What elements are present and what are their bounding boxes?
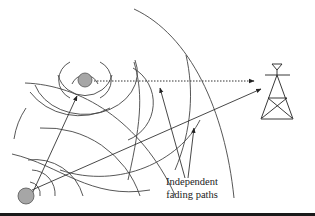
lower-phone-icon <box>18 188 34 204</box>
independent-fading-paths-label: Independent fading paths <box>160 175 224 201</box>
upper-phone-icon <box>78 73 92 87</box>
label-line-1: Independent <box>160 175 224 188</box>
wave-arc <box>40 128 140 196</box>
wave-arc <box>25 83 175 195</box>
multipath-diagram <box>0 0 315 216</box>
wave-arc <box>134 9 234 198</box>
wave-arc <box>175 55 191 170</box>
wave-arc <box>59 62 70 98</box>
label-line-2: fading paths <box>160 188 224 201</box>
wave-arc <box>32 170 55 196</box>
wave-arc <box>100 62 111 98</box>
wave-arc <box>128 68 153 140</box>
bottom-edge-bar <box>0 213 315 216</box>
label-pointer-arrow <box>188 128 194 178</box>
wavefront-arcs <box>12 9 234 198</box>
reflected-path-arrow <box>32 89 261 190</box>
wave-arc <box>14 108 26 139</box>
wave-arc <box>128 62 140 180</box>
wave-arc <box>28 160 83 196</box>
cell-tower-icon <box>261 64 293 119</box>
label-pointer-arrow <box>160 88 185 178</box>
